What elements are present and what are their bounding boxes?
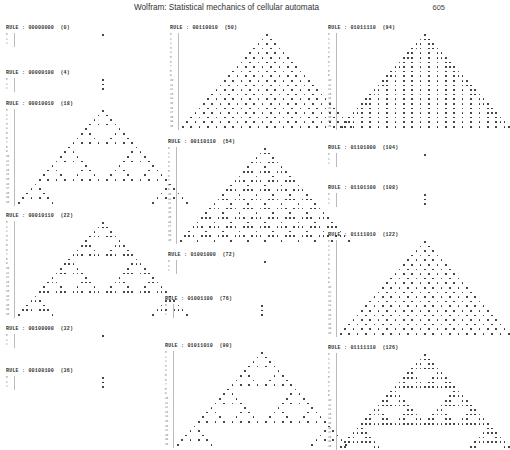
- row-number: 0: [328, 153, 330, 156]
- row-number: 2: [6, 118, 8, 121]
- row-number: 0: [170, 33, 172, 36]
- row-number: 0: [6, 78, 8, 81]
- row-number: 8: [165, 388, 167, 391]
- row-number: 15: [168, 216, 171, 219]
- row-number: 3: [165, 365, 167, 368]
- row-divider: [173, 304, 174, 318]
- row-number: 7: [328, 65, 330, 68]
- row-number: 11: [170, 84, 173, 87]
- row-number: 4: [168, 165, 170, 168]
- row-number: 12: [6, 164, 9, 167]
- row-number: 19: [6, 196, 9, 199]
- rule-label: RULE : 01101100 (108): [328, 185, 398, 191]
- row-number: 12: [328, 408, 331, 411]
- row-number: 18: [168, 230, 171, 233]
- row-number: 8: [328, 70, 330, 73]
- row-number: 0: [328, 240, 330, 243]
- row-number: 18: [6, 304, 9, 307]
- row-number: 6: [165, 379, 167, 382]
- row-number: 3: [328, 367, 330, 370]
- rule-label: RULE : 01111110 (126): [328, 345, 398, 351]
- row-number: 2: [6, 42, 8, 45]
- row-number: 0: [165, 351, 167, 354]
- row-number: 14: [328, 417, 331, 420]
- row-number: 1: [6, 381, 8, 384]
- row-number: 19: [170, 120, 173, 123]
- row-number: 1: [328, 38, 330, 41]
- row-number: 18: [328, 323, 331, 326]
- rule-label: RULE : 01011010 (90): [165, 343, 232, 349]
- rule-label: RULE : 01111010 (122): [328, 232, 398, 238]
- row-number: 5: [328, 56, 330, 59]
- row-number: 18: [328, 116, 331, 119]
- row-divider: [336, 353, 337, 450]
- row-divider: [176, 260, 177, 274]
- row-number: 16: [168, 221, 171, 224]
- row-number: 2: [165, 360, 167, 363]
- row-number: 9: [328, 394, 330, 397]
- row-number: 4: [6, 239, 8, 242]
- row-number: 1: [328, 358, 330, 361]
- row-number: 5: [328, 263, 330, 266]
- row-number: 1: [6, 38, 8, 41]
- row-number: 12: [6, 276, 9, 279]
- row-number: 0: [328, 33, 330, 36]
- row-number: 20: [168, 239, 171, 242]
- row-number: 16: [6, 183, 9, 186]
- row-number: 1: [6, 83, 8, 86]
- row-number: 1: [168, 152, 170, 155]
- row-number: 15: [328, 102, 331, 105]
- rule-label: RULE : 00010010 (18): [6, 101, 73, 107]
- row-number: 10: [328, 399, 331, 402]
- row-divider: [173, 351, 174, 448]
- row-number: 1: [165, 309, 167, 312]
- row-number: 20: [6, 201, 9, 204]
- rule-label: RULE : 00110110 (54): [168, 139, 235, 145]
- row-number: 0: [6, 221, 8, 224]
- row-number: 12: [165, 406, 168, 409]
- row-number: 10: [6, 155, 9, 158]
- row-number: 6: [170, 61, 172, 64]
- row-number: 1: [6, 114, 8, 117]
- row-number: 11: [328, 84, 331, 87]
- row-number: 0: [168, 147, 170, 150]
- rule-label: RULE : 00000000 (0): [6, 25, 70, 31]
- row-number: 6: [6, 249, 8, 252]
- row-number: 1: [328, 158, 330, 161]
- row-number: 2: [6, 385, 8, 388]
- row-number: 17: [168, 225, 171, 228]
- row-number: 12: [170, 88, 173, 91]
- row-number: 9: [168, 188, 170, 191]
- row-number: 11: [6, 272, 9, 275]
- row-number: 17: [170, 111, 173, 114]
- row-number: 10: [6, 267, 9, 270]
- row-number: 13: [6, 281, 9, 284]
- row-number: 19: [168, 234, 171, 237]
- row-number: 3: [6, 123, 8, 126]
- row-number: 8: [6, 258, 8, 261]
- row-number: 5: [170, 56, 172, 59]
- rule-label: RULE : 01001100 (76): [165, 296, 232, 302]
- row-number: 9: [328, 74, 330, 77]
- row-divider: [14, 33, 15, 47]
- row-number: 11: [168, 198, 171, 201]
- row-number: 0: [165, 304, 167, 307]
- row-number: 16: [170, 107, 173, 110]
- row-number: 10: [328, 286, 331, 289]
- row-number: 6: [328, 381, 330, 384]
- row-number: 11: [328, 404, 331, 407]
- row-divider: [14, 334, 15, 348]
- row-divider: [336, 153, 337, 167]
- row-number: 15: [165, 420, 168, 423]
- rule-label: RULE : 01001000 (72): [168, 252, 235, 258]
- row-number: 9: [170, 74, 172, 77]
- row-number: 2: [328, 162, 330, 165]
- row-number: 1: [165, 356, 167, 359]
- row-number: 16: [328, 314, 331, 317]
- row-number: 1: [328, 198, 330, 201]
- rule-label: RULE : 00100000 (32): [6, 326, 73, 332]
- rule-label: RULE : 00100100 (36): [6, 368, 73, 374]
- row-number: 2: [168, 269, 170, 272]
- row-number: 2: [168, 156, 170, 159]
- row-number: 18: [328, 436, 331, 439]
